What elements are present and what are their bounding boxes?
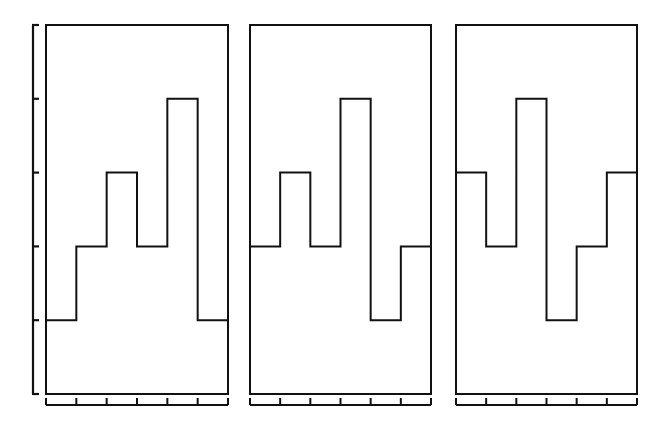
panel-1-step-line bbox=[46, 99, 228, 320]
step-chart-figure bbox=[0, 0, 667, 429]
panel-2-step-line bbox=[250, 99, 431, 320]
chart-canvas bbox=[0, 0, 667, 429]
panel-3-step-line bbox=[456, 99, 637, 320]
